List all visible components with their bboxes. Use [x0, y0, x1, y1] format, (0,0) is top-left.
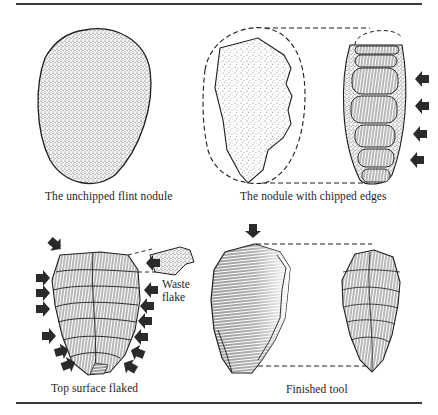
label-waste-flake-2: flake — [162, 291, 185, 303]
strike-arrows-side — [410, 71, 429, 168]
chipped-nodule-front — [203, 28, 305, 184]
top-flaked-core — [52, 252, 140, 375]
finished-tool-back — [342, 250, 400, 372]
flint-tool-diagram — [0, 0, 438, 415]
strike-arrow-down — [245, 224, 261, 238]
caption-unchipped-nodule: The unchipped flint nodule — [45, 190, 172, 202]
label-waste-flake-1: Waste — [162, 278, 190, 290]
caption-finished-tool: Finished tool — [286, 383, 348, 395]
finished-tool-front — [211, 244, 290, 373]
caption-chipped-nodule: The nodule with chipped edges — [240, 190, 387, 202]
unchipped-nodule — [38, 29, 151, 184]
caption-top-surface-flaked: Top surface flaked — [51, 382, 138, 394]
chipped-nodule-side — [343, 31, 405, 184]
bottom-rule — [16, 402, 422, 404]
